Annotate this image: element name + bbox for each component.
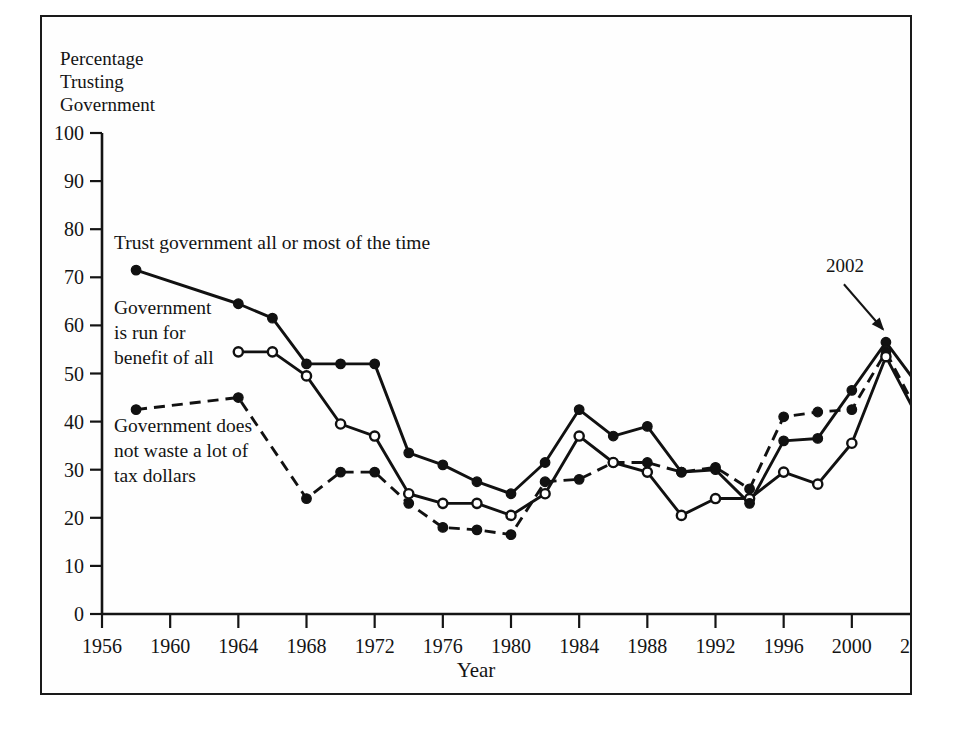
x-tick-label: 1988 — [627, 635, 667, 657]
data-point-filled — [847, 386, 857, 396]
data-point-filled — [779, 412, 789, 422]
data-point-filled — [131, 265, 141, 275]
data-point-filled — [643, 422, 653, 432]
data-point-filled — [677, 467, 687, 477]
data-point-open — [677, 511, 686, 520]
data-point-filled — [813, 407, 823, 417]
y-axis-title-line-3: Government — [60, 94, 156, 115]
data-point-filled — [234, 299, 244, 309]
data-point-open — [336, 419, 345, 428]
figure-frame: Percentage Trusting Government 010203040… — [40, 15, 912, 695]
series-markers-trust-government — [131, 265, 910, 508]
data-point-open — [404, 489, 413, 498]
series-markers-government-run-for-benefit-of-all — [234, 347, 910, 520]
data-point-filled — [268, 313, 278, 323]
data-point-filled — [540, 458, 550, 468]
data-point-filled — [813, 434, 823, 444]
data-point-filled — [472, 477, 482, 487]
x-tick-label: 1996 — [764, 635, 804, 657]
data-point-filled — [370, 359, 380, 369]
data-point-filled — [404, 499, 414, 509]
data-point-open — [370, 431, 379, 440]
y-tick-label: 100 — [54, 122, 84, 144]
data-point-open — [847, 439, 856, 448]
y-tick-label: 90 — [64, 170, 84, 192]
data-point-open — [472, 499, 481, 508]
y-tick-label: 10 — [64, 555, 84, 577]
x-axis-ticks: 1956196019641968197219761980198419881992… — [82, 614, 910, 657]
data-point-filled — [302, 359, 312, 369]
y-tick-label: 80 — [64, 218, 84, 240]
data-point-filled — [574, 475, 584, 485]
x-tick-label: 1984 — [559, 635, 599, 657]
data-point-filled — [438, 460, 448, 470]
series-line-trust-government — [136, 270, 910, 503]
data-point-filled — [540, 477, 550, 487]
data-point-filled — [745, 499, 755, 509]
data-point-filled — [404, 448, 414, 458]
data-point-filled — [506, 489, 516, 499]
annotation-benefit-line-3: benefit of all — [114, 347, 214, 368]
x-tick-label: 2004 — [900, 635, 910, 657]
data-point-open — [575, 431, 584, 440]
y-tick-label: 40 — [64, 411, 84, 433]
x-tick-label: 1968 — [287, 635, 327, 657]
callout-label-2002: 2002 — [826, 255, 864, 276]
data-point-filled — [302, 494, 312, 504]
data-point-filled — [472, 525, 482, 535]
y-axis-ticks: 0102030405060708090100 — [54, 122, 102, 625]
data-point-open — [540, 489, 549, 498]
data-point-filled — [131, 405, 141, 415]
data-point-open — [234, 347, 243, 356]
data-point-filled — [847, 405, 857, 415]
data-point-open — [268, 347, 277, 356]
y-tick-label: 30 — [64, 459, 84, 481]
data-point-filled — [336, 359, 346, 369]
y-tick-label: 70 — [64, 266, 84, 288]
y-tick-label: 60 — [64, 314, 84, 336]
x-axis-title: Year — [457, 658, 496, 682]
y-axis-title-line-1: Percentage — [60, 48, 143, 69]
data-point-open — [779, 468, 788, 477]
annotation-waste-line-2: not waste a lot of — [114, 440, 249, 461]
data-point-open — [813, 480, 822, 489]
data-point-filled — [574, 405, 584, 415]
data-point-filled — [370, 467, 380, 477]
data-point-filled — [438, 523, 448, 533]
x-tick-label: 2000 — [832, 635, 872, 657]
annotation-benefit-line-1: Government — [114, 297, 212, 318]
data-point-filled — [881, 337, 891, 347]
data-point-filled — [745, 484, 755, 494]
trust-in-government-line-chart: Percentage Trusting Government 010203040… — [42, 17, 910, 693]
data-point-filled — [506, 530, 516, 540]
x-tick-label: 1980 — [491, 635, 531, 657]
data-point-open — [711, 494, 720, 503]
annotation-benefit-line-2: is run for — [114, 322, 186, 343]
data-point-filled — [779, 436, 789, 446]
data-point-filled — [643, 458, 653, 468]
x-tick-label: 1964 — [218, 635, 258, 657]
data-point-filled — [234, 393, 244, 403]
data-point-open — [302, 371, 311, 380]
y-tick-label: 20 — [64, 507, 84, 529]
data-point-filled — [711, 465, 721, 475]
data-point-open — [881, 352, 890, 361]
x-tick-label: 1956 — [82, 635, 122, 657]
annotation-trust-government: Trust government all or most of the time — [114, 232, 430, 253]
y-axis-title-line-2: Trusting — [60, 71, 124, 92]
y-tick-label: 50 — [64, 363, 84, 385]
x-tick-label: 1960 — [150, 635, 190, 657]
data-point-open — [506, 511, 515, 520]
data-point-open — [609, 458, 618, 467]
x-tick-label: 1976 — [423, 635, 463, 657]
annotation-waste-line-1: Government does — [114, 415, 252, 436]
x-tick-label: 1992 — [696, 635, 736, 657]
x-tick-label: 1972 — [355, 635, 395, 657]
data-point-open — [438, 499, 447, 508]
annotation-waste-line-3: tax dollars — [114, 465, 196, 486]
data-point-filled — [608, 431, 618, 441]
y-tick-label: 0 — [74, 603, 84, 625]
data-point-open — [643, 468, 652, 477]
data-point-filled — [336, 467, 346, 477]
